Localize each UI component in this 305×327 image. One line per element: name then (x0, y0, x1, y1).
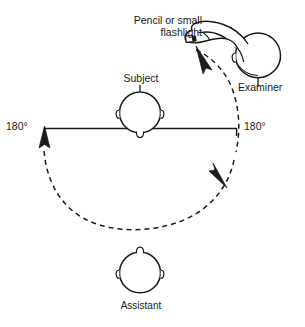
assistant-skull (119, 252, 160, 293)
arc-segment-lower-sweep (44, 150, 234, 230)
subject-ear-right (161, 110, 164, 118)
clinical-diagram-figure: Pencil or small flashlight Subject Exami… (0, 0, 305, 327)
assistant-label: Assistant (110, 300, 172, 312)
diagram-canvas (0, 0, 305, 327)
assistant-head-icon (116, 247, 164, 293)
examiner-label: Examiner (238, 81, 282, 93)
subject-label: Subject (113, 72, 169, 84)
degree-label-left: 180° (6, 120, 28, 132)
subject-head-icon (116, 85, 164, 138)
arrowhead-start-icon (196, 46, 212, 74)
arrowhead-middle-icon (209, 163, 227, 188)
degree-label-right: 180° (244, 120, 266, 132)
assistant-nose (136, 247, 143, 253)
examiner-ear (232, 53, 236, 62)
subject-nose (136, 132, 143, 138)
assistant-ear-left (116, 270, 119, 278)
assistant-ear-right (161, 270, 164, 278)
pencil-or-flashlight-label: Pencil or small flashlight (98, 14, 202, 39)
subject-ear-left (116, 110, 119, 118)
subject-skull (119, 92, 160, 133)
